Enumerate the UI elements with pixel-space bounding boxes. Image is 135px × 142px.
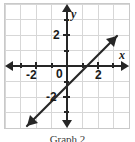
y-tick-minus-1 [64,81,69,83]
y-axis-label-2: 2 [53,29,60,41]
x-tick-1 [82,63,84,68]
gridline-vertical [129,4,130,128]
coordinate-plane: -2 2 2 -2 0 y x [4,3,130,129]
gridline-horizontal [5,128,129,129]
x-axis-name: x [119,49,125,61]
x-tick-3 [112,63,114,68]
y-tick-3 [64,19,69,21]
figure-caption-text: Graph 2 [0,133,135,142]
x-axis-label-2: 2 [95,69,102,81]
x-tick-minus-1 [51,63,53,68]
figure-caption: Graph 2 [0,131,135,142]
y-tick-1 [64,50,69,52]
y-tick-minus-3 [64,111,69,113]
y-axis [66,6,68,126]
x-axis-arrow-left-icon [5,61,13,71]
y-tick-2 [63,34,70,36]
x-axis-arrow-right-icon [121,61,129,71]
y-axis-arrow-down-icon [62,120,72,128]
y-axis-name: y [71,8,76,20]
origin-label: 0 [56,68,63,80]
x-tick-minus-3 [20,63,22,68]
graph-figure: -2 2 2 -2 0 y x Graph 2 [0,0,135,142]
x-axis-label-minus-2: -2 [26,69,37,81]
y-axis-label-minus-2: -2 [46,91,57,103]
y-tick-minus-2 [63,96,70,98]
